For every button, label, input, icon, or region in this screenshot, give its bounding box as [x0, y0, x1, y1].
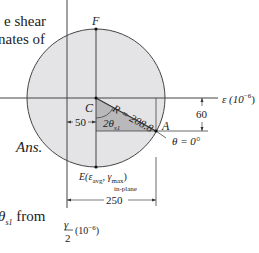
point-f-label: F	[92, 15, 99, 27]
dim-60-label: 60	[196, 109, 207, 120]
epsilon-axis-label: ε (10−6)	[222, 93, 255, 105]
body-text-line-1: e shear	[4, 14, 46, 29]
point-c-label: C	[85, 102, 93, 114]
theta-zero-label: θ = 0°	[172, 136, 200, 147]
point-a-label: A	[162, 120, 169, 132]
gamma-denominator: 2	[65, 233, 71, 244]
point-e-label: E(εavg, γmax)	[79, 172, 127, 185]
answer-label: Ans.	[16, 140, 42, 155]
gamma-axis-unit: (10−6)	[75, 225, 99, 236]
body-text-line-2: nates of	[0, 32, 45, 47]
angle-label: 2θs1	[103, 118, 120, 132]
point-e-subscript: in-plane	[114, 186, 137, 193]
gamma-numerator: γ	[64, 219, 68, 230]
dim-250-label: 250	[106, 195, 123, 206]
body-text-line-3: θs1 from	[0, 209, 45, 227]
dim-50-label: 50	[75, 117, 86, 128]
